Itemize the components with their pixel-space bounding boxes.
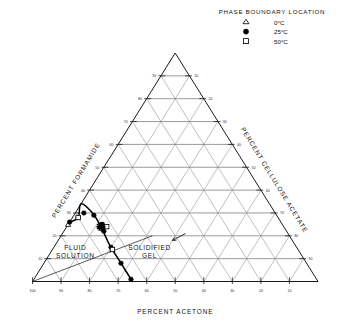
grid-line-acetone [104,167,175,281]
tick-label-formamide: 50 [95,166,99,170]
bottom-axis-title: PERCENT ACETONE [137,308,213,315]
tick-label-cellulose: 30 [223,120,227,124]
tick-label-cellulose: 60 [266,189,270,193]
data-point-circle-filled [92,213,97,218]
data-point-circle-filled [67,220,72,225]
legend-entry[interactable]: 25°C [243,28,288,35]
tick-label-acetone: 100 [30,289,36,293]
grid-line-cellulose [175,167,246,281]
grid-line-cellulose [118,122,218,282]
tick-label-formamide: 20 [52,234,56,238]
tick-label-cellulose: 90 [309,257,313,261]
fluid-solution-label-line1: FLUID [64,244,86,251]
legend-title: PHASE BOUNDARY LOCATION [219,8,326,15]
solidified-gel-label-line1: SOLIDIFIED [128,244,171,251]
tick-label-acetone: 70 [116,289,120,293]
grid-line-cellulose [232,213,275,282]
tick-label-acetone: 40 [202,289,206,293]
data-point-circle-filled [129,277,134,282]
tick-label-cellulose: 40 [237,143,241,147]
tick-label-cellulose: 10 [194,74,198,78]
tick-label-cellulose: 80 [294,234,298,238]
solidified-gel-label-line2: GEL [142,252,157,259]
tick-label-acetone: 50 [173,289,177,293]
left-axis-title: PERCENT FORMAMIDE [50,141,101,218]
region-annotations: FLUID SOLUTION SOLIDIFIED GEL [56,234,185,259]
tick-label-cellulose: 50 [251,166,255,170]
tick-label-formamide: 10 [38,257,42,261]
diagram-canvas: 1009080706050403020101020304050607080901… [0,0,346,329]
tick-label-formamide: 70 [124,120,128,124]
ternary-phase-diagram: 1009080706050403020101020304050607080901… [0,0,346,329]
legend: PHASE BOUNDARY LOCATION 0°C25°C50°C [219,8,326,45]
legend-entries: 0°C25°C50°C [243,19,288,45]
tick-label-formamide: 80 [138,97,142,101]
legend-entry[interactable]: 50°C [244,38,289,45]
fluid-solution-label-line2: SOLUTION [56,252,95,259]
tick-label-acetone: 60 [145,289,149,293]
square-open-icon [244,39,249,44]
data-point-circle-filled [82,211,87,216]
tick-label-formamide: 60 [110,143,114,147]
tick-label-formamide: 40 [81,189,85,193]
tick-label-acetone: 30 [230,289,234,293]
legend-entry-label: 0°C [274,19,285,26]
data-point-square-open [110,247,114,251]
legend-entry-label: 50°C [274,38,288,45]
triangle-open-icon [243,19,249,23]
legend-entry-label: 25°C [274,28,288,35]
circle-filled-icon [243,29,248,34]
legend-entry[interactable]: 0°C [243,19,285,26]
data-point-square-open [76,215,80,219]
ternary-grid [47,76,304,282]
right-axis-title: PERCENT CELLULOSE ACETATE [240,126,310,234]
grid-line-acetone [47,259,61,282]
tick-label-acetone: 10 [287,289,291,293]
tick-label-formamide: 30 [67,211,71,215]
tick-label-formamide: 90 [152,74,156,78]
tick-label-acetone: 90 [59,289,63,293]
tick-label-cellulose: 70 [280,211,284,215]
data-point-circle-filled [119,261,124,266]
tick-label-acetone: 20 [259,289,263,293]
tick-label-acetone: 80 [88,289,92,293]
grid-line-cellulose [289,259,303,282]
tick-label-cellulose: 20 [209,97,213,101]
